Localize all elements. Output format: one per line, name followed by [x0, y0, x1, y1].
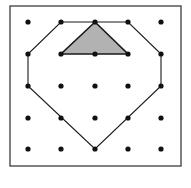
peg-dot-r0-c0 [25, 19, 30, 24]
peg-dot-r3-c0 [25, 115, 30, 120]
peg-dot-r1-c4 [158, 51, 163, 56]
peg-dot-r2-c3 [125, 83, 130, 88]
peg-dot-r3-c3 [125, 115, 130, 120]
peg-dot-r1-c0 [25, 51, 30, 56]
peg-dot-r1-c1 [58, 51, 63, 56]
peg-dot-r0-c3 [125, 19, 130, 24]
peg-dot-r3-c2 [92, 115, 97, 120]
peg-dot-r2-c1 [58, 83, 63, 88]
peg-dot-r0-c4 [158, 19, 163, 24]
geoboard-figure: Geoboard with shaded triangle inside a h… [0, 0, 191, 188]
peg-dot-r2-c2 [92, 83, 97, 88]
geoboard-canvas [0, 0, 191, 188]
peg-dot-r1-c3 [125, 51, 130, 56]
peg-dot-r4-c0 [25, 146, 30, 151]
peg-dot-r4-c4 [158, 146, 163, 151]
peg-dot-r1-c2 [92, 51, 97, 56]
peg-dot-r0-c1 [58, 19, 63, 24]
peg-dot-r0-c2 [92, 19, 97, 24]
peg-dot-r4-c2 [92, 146, 97, 151]
peg-dot-r4-c3 [125, 146, 130, 151]
peg-dot-r3-c4 [158, 115, 163, 120]
peg-dot-r2-c4 [158, 83, 163, 88]
peg-dot-r2-c0 [25, 83, 30, 88]
peg-dot-r3-c1 [58, 115, 63, 120]
peg-dot-r4-c1 [58, 146, 63, 151]
